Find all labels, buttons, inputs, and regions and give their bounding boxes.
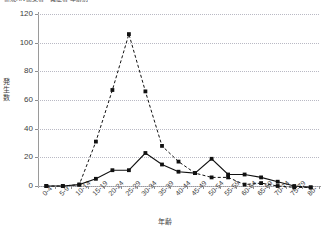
x-tick-mark: [154, 186, 155, 189]
y-tick-label: 100: [6, 39, 33, 47]
x-tick-mark: [55, 186, 56, 189]
data-point-marker: [94, 140, 98, 144]
y-tick-mark: [35, 14, 38, 15]
y-tick-label: 120: [6, 10, 33, 18]
data-point-marker: [127, 32, 131, 36]
x-tick-mark: [302, 186, 303, 189]
data-point-marker: [193, 171, 197, 175]
x-tick-mark: [269, 186, 270, 189]
x-tick-mark: [286, 186, 287, 189]
data-point-marker: [276, 184, 280, 188]
y-tick-mark: [35, 129, 38, 130]
data-point-marker: [177, 160, 181, 164]
x-tick-mark: [187, 186, 188, 189]
x-tick-mark: [88, 186, 89, 189]
data-point-marker: [226, 173, 230, 177]
data-point-marker: [243, 183, 247, 187]
data-point-marker: [94, 177, 98, 181]
y-tick-label: 20: [6, 153, 33, 161]
data-point-marker: [210, 176, 214, 180]
data-point-marker: [292, 184, 296, 188]
y-tick-mark: [35, 100, 38, 101]
data-point-marker: [111, 88, 115, 92]
data-point-marker: [144, 151, 148, 155]
data-point-marker: [160, 144, 164, 148]
x-tick-mark: [253, 186, 254, 189]
x-tick-mark: [137, 186, 138, 189]
x-tick-mark: [236, 186, 237, 189]
data-point-marker: [111, 168, 115, 172]
x-tick-mark: [104, 186, 105, 189]
data-point-marker: [276, 180, 280, 184]
data-point-marker: [210, 157, 214, 161]
data-point-marker: [127, 168, 131, 172]
x-tick-mark: [170, 186, 171, 189]
x-tick-mark: [220, 186, 221, 189]
data-point-marker: [177, 170, 181, 174]
data-point-marker: [44, 184, 48, 188]
data-point-marker: [259, 176, 263, 180]
x-tick-mark: [319, 186, 320, 189]
x-tick-mark: [121, 186, 122, 189]
y-tick-label: 0: [6, 182, 33, 190]
y-tick-label: 80: [6, 67, 33, 75]
y-tick-mark: [35, 157, 38, 158]
data-point-marker: [309, 186, 313, 190]
series-layer: [0, 0, 329, 232]
y-tick-label: 40: [6, 125, 33, 133]
y-tick-mark: [35, 43, 38, 44]
chart-container: 新規HIV感染者・発症者 年齢別 発生数 年齢 0-45-910-1415-19…: [0, 0, 329, 232]
data-point-marker: [144, 90, 148, 94]
series-line-series-dashed: [46, 34, 310, 187]
y-tick-label: 60: [6, 96, 33, 104]
x-tick-mark: [71, 186, 72, 189]
y-tick-mark: [35, 186, 38, 187]
data-point-marker: [259, 181, 263, 185]
y-tick-mark: [35, 71, 38, 72]
data-point-marker: [160, 163, 164, 167]
data-point-marker: [61, 184, 65, 188]
x-tick-mark: [203, 186, 204, 189]
data-point-marker: [77, 183, 81, 187]
data-point-marker: [243, 173, 247, 177]
